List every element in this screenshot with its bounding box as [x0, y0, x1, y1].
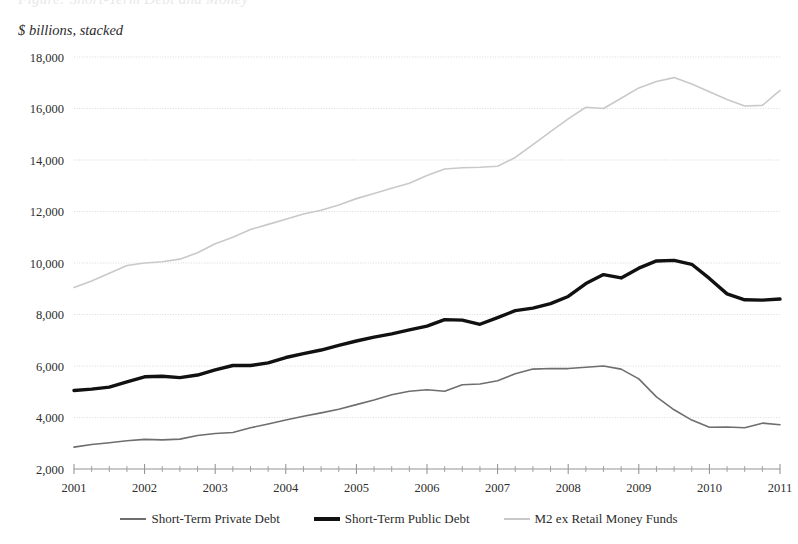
y-axis-tick-label: 12,000 [30, 205, 64, 219]
x-axis-tick-label: 2003 [203, 481, 228, 495]
legend-item-m2: M2 ex Retail Money Funds [504, 512, 678, 525]
y-axis-tick-labels-group: 2,0004,0006,0008,00010,00012,00014,00016… [30, 51, 64, 477]
x-axis-tick-label: 2002 [132, 481, 157, 495]
x-axis-tick-label: 2007 [485, 481, 510, 495]
x-axis-tick-label: 2010 [697, 481, 722, 495]
x-axis-tick-label: 2005 [344, 481, 369, 495]
x-axis-tick-label: 2001 [62, 481, 87, 495]
x-axis-tick-label: 2011 [768, 481, 793, 495]
legend-label-private-debt: Short-Term Private Debt [151, 512, 279, 525]
y-axis-tick-label: 8,000 [36, 308, 64, 322]
legend-label-m2: M2 ex Retail Money Funds [535, 512, 678, 525]
data-series-group [74, 78, 780, 448]
line-chart-plot: 2,0004,0006,0008,00010,00012,00014,00016… [0, 0, 798, 500]
y-axis-tick-label: 16,000 [30, 102, 64, 116]
gridlines-group [74, 57, 780, 469]
y-axis-tick-label: 4,000 [36, 411, 64, 425]
series-line [74, 78, 780, 288]
y-axis-tick-label: 6,000 [36, 360, 64, 374]
legend-item-private-debt: Short-Term Private Debt [120, 512, 279, 525]
y-axis-tick-label: 10,000 [30, 257, 64, 271]
x-axis-tick-labels-group: 2001200220032004200520062007200820092010… [62, 481, 793, 495]
x-axis-tick-label: 2004 [273, 481, 299, 495]
legend-swatch-private-debt [120, 518, 146, 520]
y-axis-tick-label: 2,000 [36, 463, 64, 477]
legend-item-public-debt: Short-Term Public Debt [314, 512, 470, 525]
x-axis-tick-label: 2008 [556, 481, 581, 495]
y-axis-tick-label: 14,000 [30, 154, 64, 168]
x-axis-tick-label: 2009 [626, 481, 651, 495]
series-line [74, 260, 780, 390]
legend-label-public-debt: Short-Term Public Debt [345, 512, 470, 525]
x-axis-tick-label: 2006 [415, 481, 440, 495]
chart-legend: Short-Term Private Debt Short-Term Publi… [0, 512, 798, 525]
legend-swatch-public-debt [314, 517, 340, 521]
legend-swatch-m2 [504, 518, 530, 520]
chart-root: Figure: Short-Term Debt and Money $ bill… [0, 0, 798, 544]
y-axis-tick-label: 18,000 [30, 51, 64, 65]
